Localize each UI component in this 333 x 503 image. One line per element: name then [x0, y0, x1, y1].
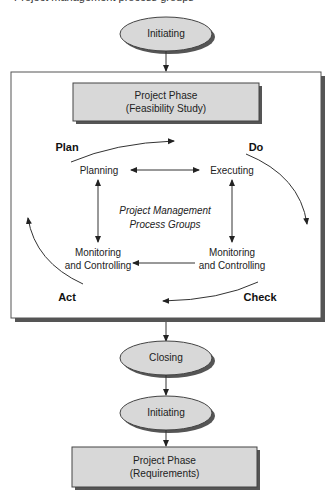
initiating-label-top: Initiating: [126, 27, 205, 40]
center-label-line1: Project Management: [116, 204, 215, 217]
act-label: Act: [55, 291, 79, 304]
executing-label: Executing: [201, 164, 264, 177]
phase-1-title: Project Phase: [84, 89, 248, 102]
phase-1-subtitle: (Feasibility Study): [84, 102, 248, 115]
monitoring-left-line1: Monitoring: [62, 246, 134, 259]
planning-label: Planning: [68, 164, 131, 177]
phase-2-subtitle: (Requirements): [83, 467, 246, 480]
center-label-line2: Process Groups: [116, 218, 215, 231]
diagram-canvas: [0, 0, 333, 503]
monitoring-right-line2: and Controlling: [196, 259, 268, 272]
do-label: Do: [246, 141, 266, 154]
phase-2-title: Project Phase: [83, 454, 246, 467]
plan-label: Plan: [55, 141, 79, 154]
check-label: Check: [240, 291, 280, 304]
initiating-label-next: Initiating: [126, 406, 205, 419]
monitoring-right-line1: Monitoring: [196, 246, 268, 259]
closing-label: Closing: [126, 351, 205, 364]
monitoring-left-line2: and Controlling: [62, 259, 134, 272]
